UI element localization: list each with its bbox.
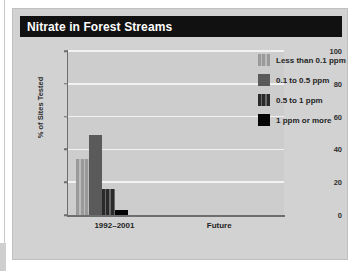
y-axis-title: % of Sites Tested [36,58,45,158]
light-striped-swatch [258,54,270,66]
plot-area-wrapper: % of Sites Tested 020406080100 1992–2001… [20,41,342,253]
plot-canvas [68,51,284,215]
legend-item: 0.5 to 1 ppm [258,93,360,107]
legend-item-label: 0.5 to 1 ppm [276,96,323,105]
legend-item: 1 ppm or more [258,113,360,127]
y-axis-tick-label: 20 [300,178,342,187]
chart-figure-panel: Nitrate in Forest Streams % of Sites Tes… [12,8,348,260]
chart-title-bar: Nitrate in Forest Streams [20,16,342,37]
legend-item: Less than 0.1 ppm [258,53,360,67]
y-axis-tick-label: 0 [300,211,342,220]
y-axis-tick-label: 40 [300,145,342,154]
bar-group [68,51,284,215]
legend-item: 0.1 to 0.5 ppm [258,73,360,87]
black-solid-swatch [258,114,270,126]
bar [76,159,89,215]
x-axis-tick-label: 1992–2001 [94,221,134,230]
bar [89,135,102,215]
legend-item-label: Less than 0.1 ppm [276,56,346,65]
bar [102,189,115,215]
dark-striped-swatch [258,94,270,106]
x-axis-line [67,215,285,217]
page-margin-rule [4,0,5,271]
page-corner-block [0,243,6,271]
figure-screenshot: Nitrate in Forest Streams % of Sites Tes… [0,0,360,271]
chart-title: Nitrate in Forest Streams [20,20,172,34]
legend-item-label: 1 ppm or more [276,116,332,125]
legend-item-label: 0.1 to 0.5 ppm [276,76,329,85]
chart-legend: Less than 0.1 ppm0.1 to 0.5 ppm0.5 to 1 … [258,53,360,133]
mid-solid-swatch [258,74,270,86]
bar [115,210,128,215]
x-axis-tick-label: Future [207,221,232,230]
